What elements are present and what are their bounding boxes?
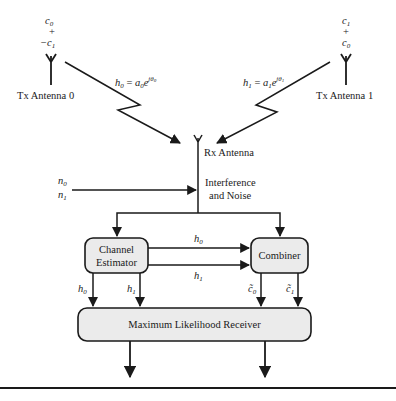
est-comb-h0-label: h0: [194, 233, 203, 246]
tx-antenna-1-label: Tx Antenna 1: [316, 90, 373, 101]
rx-antenna: Rx Antenna: [194, 135, 254, 213]
noise-n1: n1: [58, 189, 67, 202]
figure-caption: [4, 390, 392, 401]
comb-ml-c1-label: c̃1: [286, 283, 294, 296]
tx-antenna-0-label: Tx Antenna 0: [17, 90, 74, 101]
combiner-block: Combiner: [251, 238, 308, 273]
antenna-icon: [341, 54, 351, 85]
tx1-symbol-plus: +: [343, 26, 349, 37]
alamouti-diagram: c0 + −c1 Tx Antenna 0 c1 + c0 Tx Antenna…: [0, 0, 396, 401]
est-comb-h1-label: h1: [194, 270, 203, 283]
antenna-icon: [194, 135, 202, 213]
combiner-label: Combiner: [259, 250, 301, 261]
tx0-symbol-bottom: −c1: [40, 37, 55, 50]
comb-ml-c0-label: c̃0: [248, 283, 257, 296]
channel-0-label: h0 = a0ejθ0: [115, 75, 157, 90]
tx-antenna-0: c0 + −c1 Tx Antenna 0: [17, 15, 74, 101]
antenna-icon: [46, 54, 56, 85]
channel-estimator-label-line2: Estimator: [96, 257, 137, 268]
interference-label-line1: Interference: [205, 177, 256, 188]
noise-input: n0 n1 Interference and Noise: [58, 175, 256, 202]
channel-estimator-block: Channel Estimator: [85, 238, 148, 273]
channel-estimator-label-line1: Channel: [99, 244, 134, 255]
channel-1-label: h1 = a1ejθ1: [243, 75, 284, 90]
ml-outputs: [130, 341, 265, 377]
estimator-to-combiner: h0 h1: [148, 233, 249, 283]
to-ml-receiver: h0 h1 c̃0 c̃1: [78, 273, 298, 306]
est-ml-h1-label: h1: [127, 283, 136, 296]
ml-receiver-label: Maximum Likelihood Receiver: [128, 319, 261, 330]
tx0-symbol-plus: +: [49, 26, 55, 37]
channel-0-path: h0 = a0ejθ0: [65, 62, 180, 143]
tx1-symbol-bottom: c0: [342, 37, 351, 50]
rx-antenna-label: Rx Antenna: [204, 147, 254, 158]
est-ml-h0-label: h0: [78, 283, 87, 296]
interference-label-line2: and Noise: [209, 190, 252, 201]
ml-receiver-block: Maximum Likelihood Receiver: [78, 308, 311, 341]
tx-antenna-1: c1 + c0 Tx Antenna 1: [316, 15, 373, 101]
noise-n0: n0: [58, 175, 67, 188]
channel-1-path: h1 = a1ejθ1: [217, 62, 330, 143]
